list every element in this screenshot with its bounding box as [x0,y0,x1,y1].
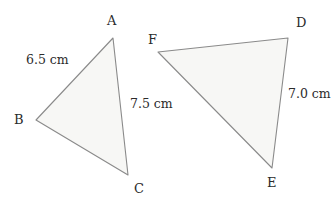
geometry-figure: A B C D E F 6.5 cm 7.5 cm 7.0 cm [0,0,334,206]
side-label-de: 7.0 cm [288,88,331,101]
vertex-label-e: E [267,176,277,189]
side-label-ab: 6.5 cm [26,54,69,67]
vertex-label-b: B [14,113,24,126]
vertex-label-d: D [296,16,306,29]
triangle-def [158,38,288,168]
vertex-label-a: A [107,14,116,27]
vertex-label-c: C [134,182,144,195]
side-label-ac: 7.5 cm [130,98,173,111]
vertex-label-f: F [148,33,157,46]
